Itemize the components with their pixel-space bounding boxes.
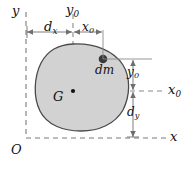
origin-label: O	[11, 143, 22, 156]
centroid-marker	[71, 89, 75, 93]
y0-right-label: y0	[127, 66, 139, 80]
y-axis-label: y	[12, 4, 19, 17]
x0-arrow-left	[74, 29, 80, 35]
mass-element-label: dm	[95, 64, 114, 76]
rigid-body-shape	[35, 44, 128, 131]
dx-label: dx	[44, 20, 57, 35]
x0-dim-label: x0	[82, 21, 94, 35]
x0-arrow-right	[96, 29, 102, 35]
dy-label: dy	[127, 106, 139, 120]
dy-arrow-bottom	[130, 131, 136, 137]
dy-arrow-top	[130, 92, 136, 98]
y0-top-label: y0	[66, 3, 79, 18]
y0-arrow-bottom	[130, 84, 136, 90]
mechanics-figure: y y0 dx x0 dm y0 x0 dy G x O	[0, 0, 188, 169]
dx-arrow-right	[66, 29, 72, 35]
x-axis-label: x	[170, 130, 177, 143]
dx-arrow-left	[27, 29, 33, 35]
x0-axis-label: x0	[168, 83, 181, 98]
centroid-label: G	[53, 90, 63, 103]
